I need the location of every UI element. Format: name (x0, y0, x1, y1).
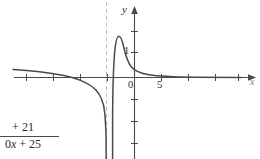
origin-tick-label: 0 (128, 80, 133, 91)
formula-numerator: + 21 (0, 121, 60, 136)
x-tick-label-5: 5 (157, 80, 162, 91)
formula-denominator-suffix: + 25 (19, 137, 41, 151)
y-axis-label: y (122, 4, 127, 15)
y-tick-label-1: 1 (124, 46, 129, 57)
function-formula: + 21 0x + 25 (0, 121, 60, 152)
x-axis-label: x (250, 77, 254, 87)
rational-function-figure: y x 0 5 1 + 21 0x + 25 (0, 0, 260, 159)
y-axis-arrow (131, 6, 138, 14)
formula-denominator: 0x + 25 (0, 137, 60, 152)
curve-right-branch (113, 36, 241, 159)
formula-denominator-variable: x (11, 137, 16, 151)
